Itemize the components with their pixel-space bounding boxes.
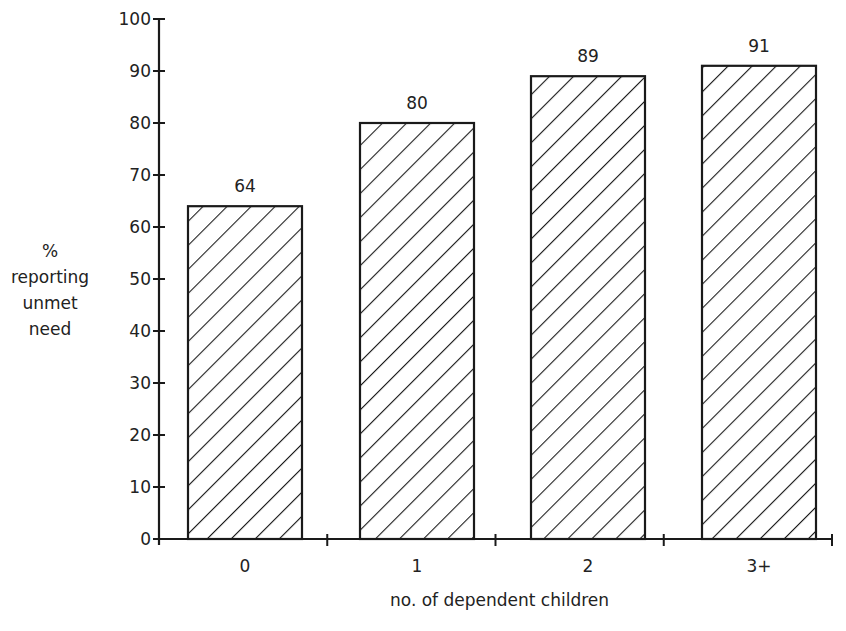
bar xyxy=(702,66,816,539)
bar-value-label: 91 xyxy=(748,36,770,56)
bar-value-label: 89 xyxy=(577,46,599,66)
y-tick-label: 50 xyxy=(129,269,151,289)
x-tick-label: 0 xyxy=(240,556,251,576)
x-tick-label: 2 xyxy=(583,556,594,576)
y-axis-title-line: unmet xyxy=(10,290,90,316)
y-tick-label: 10 xyxy=(129,477,151,497)
y-tick-label: 0 xyxy=(140,529,151,549)
y-axis: 0102030405060708090100 xyxy=(119,9,165,549)
y-tick-label: 20 xyxy=(129,425,151,445)
bar-value-label: 80 xyxy=(406,93,428,113)
bar-chart: 0102030405060708090100 640801892913+ xyxy=(0,0,846,631)
y-axis-title-line: % xyxy=(10,238,90,264)
y-tick-label: 90 xyxy=(129,61,151,81)
bar xyxy=(360,123,474,539)
bar xyxy=(188,206,302,539)
y-tick-label: 40 xyxy=(129,321,151,341)
x-tick-label: 3+ xyxy=(746,556,771,576)
x-tick-label: 1 xyxy=(412,556,423,576)
y-tick-label: 100 xyxy=(119,9,151,29)
y-tick-label: 30 xyxy=(129,373,151,393)
y-tick-label: 60 xyxy=(129,217,151,237)
bars: 640801892913+ xyxy=(188,36,816,576)
y-tick-label: 80 xyxy=(129,113,151,133)
y-axis-title-line: need xyxy=(10,316,90,342)
x-axis-title: no. of dependent children xyxy=(390,590,609,610)
y-tick-label: 70 xyxy=(129,165,151,185)
y-axis-title-line: reporting xyxy=(10,264,90,290)
bar-value-label: 64 xyxy=(234,176,256,196)
bar xyxy=(531,76,645,539)
y-axis-title: % reporting unmet need xyxy=(10,238,90,342)
